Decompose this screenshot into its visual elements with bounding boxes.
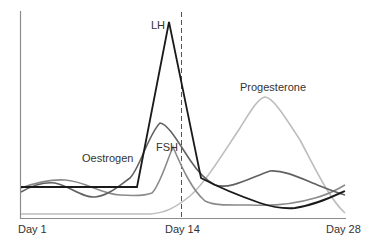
progesterone-label: Progesterone xyxy=(240,81,306,93)
lh-label: LH xyxy=(151,19,165,31)
x-tick-day14: Day 14 xyxy=(165,223,200,235)
fsh-label: FSH xyxy=(156,141,178,153)
x-tick-day28: Day 28 xyxy=(326,223,361,235)
chart-canvas: LH Oestrogen FSH Progesterone Day 1 Day … xyxy=(0,0,376,245)
hormone-cycle-chart: LH Oestrogen FSH Progesterone Day 1 Day … xyxy=(0,0,376,245)
oestrogen-label: Oestrogen xyxy=(82,152,133,164)
progesterone-line xyxy=(21,97,345,214)
x-tick-day1: Day 1 xyxy=(18,223,47,235)
